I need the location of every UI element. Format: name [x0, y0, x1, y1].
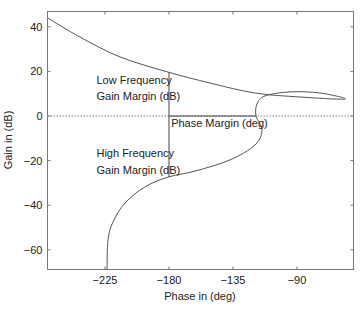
- annotations: Low FrequencyGain Margin (dB)Phase Margi…: [96, 74, 267, 176]
- nichols-chart: −225−180−135−9040200−20−40−60 Low Freque…: [0, 0, 363, 322]
- y-tick-label: 40: [30, 21, 42, 33]
- x-tick-label: −135: [221, 274, 246, 286]
- annotation-text: High Frequency: [96, 147, 174, 159]
- y-tick-label: −60: [24, 244, 43, 256]
- data-series: [48, 18, 345, 270]
- plot-frame: [48, 12, 354, 270]
- x-axis-label: Phase in (deg): [164, 290, 236, 302]
- y-tick-label: 20: [30, 65, 42, 77]
- annotation-text: Gain Margin (dB): [96, 164, 180, 176]
- x-tick-label: −180: [157, 274, 182, 286]
- axis-ticks: −225−180−135−9040200−20−40−60: [24, 12, 354, 286]
- y-tick-label: 0: [36, 110, 42, 122]
- x-tick-label: −90: [288, 274, 307, 286]
- plot-border: [48, 12, 354, 270]
- y-tick-label: −40: [24, 199, 43, 211]
- annotation-text: Gain Margin (dB): [96, 90, 180, 102]
- y-tick-label: −20: [24, 155, 43, 167]
- y-axis-label: Gain in (dB): [2, 111, 14, 170]
- nichols-curve: [48, 18, 345, 270]
- x-tick-label: −225: [93, 274, 118, 286]
- annotation-text: Low Frequency: [96, 74, 172, 86]
- annotation-text: Phase Margin (deg): [171, 117, 268, 129]
